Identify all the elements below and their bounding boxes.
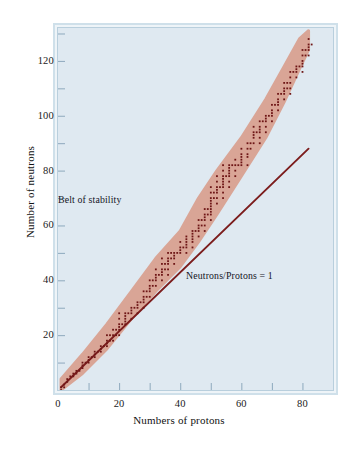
belt-of-stability-figure: 20406080100120 020406080 Numbers of prot… — [0, 0, 358, 459]
x-tick-label-0: 0 — [43, 398, 73, 409]
annotation-belt-of-stability: Belt of stability — [58, 194, 122, 205]
y-tick-label-20: 20 — [26, 330, 54, 340]
x-tick-label-60: 60 — [226, 398, 256, 409]
plot-area — [58, 28, 333, 390]
y-tick-label-120: 120 — [26, 56, 54, 66]
scatter-plot-svg — [58, 28, 333, 390]
x-axis-tick-labels: 020406080 — [0, 398, 358, 414]
annotation-neutrons-protons-ratio: Neutrons/Protons = 1 — [186, 270, 273, 281]
x-tick-label-20: 20 — [104, 398, 134, 409]
x-tick-label-80: 80 — [287, 398, 317, 409]
x-tick-label-40: 40 — [165, 398, 195, 409]
x-axis-title: Numbers of protons — [0, 414, 358, 426]
y-axis-title: Number of neutrons — [24, 102, 36, 282]
